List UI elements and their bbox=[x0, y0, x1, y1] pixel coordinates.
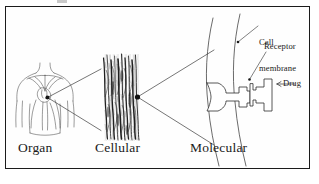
page-artifact-speck bbox=[57, 0, 67, 3]
callout-label-receptor: Receptor bbox=[264, 42, 296, 51]
figure-root: Organ Cellular Molecular Cell membrane R… bbox=[0, 0, 319, 184]
tier-label-cellular: Cellular bbox=[95, 141, 140, 155]
tier-label-molecular: Molecular bbox=[190, 141, 247, 155]
callout-label-drug: Drug bbox=[283, 79, 301, 88]
callout-cell-membrane-line2: membrane bbox=[259, 64, 296, 73]
tier-label-organ: Organ bbox=[18, 141, 53, 155]
